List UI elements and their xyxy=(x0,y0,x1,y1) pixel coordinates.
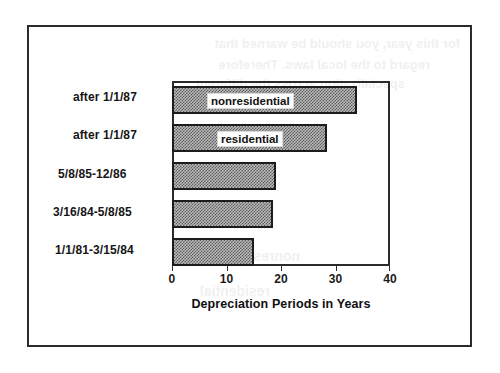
annotation-residential: residential xyxy=(217,131,283,147)
plot-area: nonresidential residential xyxy=(172,81,390,266)
x-tick-30 xyxy=(336,265,337,271)
annotation-nonresidential: nonresidential xyxy=(207,93,294,109)
category-label-1: after 1/1/87 xyxy=(73,128,137,142)
bar-5-8-85-12-86 xyxy=(172,162,276,190)
plot-frame-top xyxy=(172,81,390,83)
plot-frame-right xyxy=(388,81,390,266)
x-tick-0 xyxy=(172,265,173,271)
x-ticklabel-40: 40 xyxy=(383,272,397,286)
x-ticklabel-10: 10 xyxy=(220,272,234,286)
category-label-4: 1/1/81-3/15/84 xyxy=(55,243,134,257)
x-tick-10 xyxy=(227,265,228,271)
category-label-3: 3/16/84-5/8/85 xyxy=(53,205,132,219)
category-label-0: after 1/1/87 xyxy=(73,90,137,104)
x-ticklabel-30: 30 xyxy=(329,272,343,286)
category-label-2: 5/8/85-12/86 xyxy=(58,167,127,181)
bar-3-16-84-5-8-85 xyxy=(172,200,273,228)
bar-1-1-81-3-15-84 xyxy=(172,238,254,266)
x-ticklabel-20: 20 xyxy=(274,272,288,286)
x-tick-20 xyxy=(281,265,282,271)
x-tick-40 xyxy=(389,265,390,271)
x-ticklabel-0: 0 xyxy=(169,272,176,286)
x-axis-title: Depreciation Periods in Years xyxy=(172,297,390,311)
bar-chart: after 1/1/87 after 1/1/87 5/8/85-12/86 3… xyxy=(0,0,500,373)
